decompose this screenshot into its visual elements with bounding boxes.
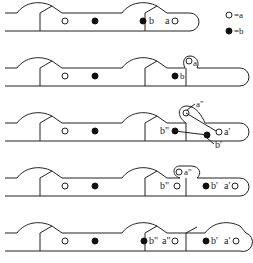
- legend-filled-label: =b: [234, 26, 244, 36]
- label-a: a: [165, 16, 169, 26]
- label-b-double-prime: b": [160, 126, 169, 136]
- label-b-prime: b': [211, 181, 218, 191]
- label-a-prime: a': [224, 127, 230, 137]
- label-b: b: [149, 16, 154, 26]
- legend-filled-icon: [226, 28, 232, 34]
- label-a-double-prime: a": [196, 99, 204, 109]
- open-circle-a: [172, 18, 178, 24]
- label-a: a: [193, 58, 197, 68]
- label-a-double-prime: a": [162, 236, 171, 246]
- filled-circle-b: [92, 18, 98, 24]
- label-a-prime: a': [224, 236, 230, 246]
- label-a-double-prime: a": [184, 167, 192, 177]
- label-b-double-prime: b": [149, 236, 158, 246]
- stage-2: [5, 56, 249, 86]
- label-b: b: [180, 71, 185, 81]
- legend-open-label: =a: [234, 10, 243, 20]
- stage-1: [5, 3, 232, 34]
- stage-3: [5, 104, 249, 144]
- diagram-canvas: [0, 0, 253, 263]
- label-b-double-prime: b": [160, 181, 169, 191]
- label-b-prime: b': [211, 236, 218, 246]
- label-a-prime: a': [224, 181, 230, 191]
- open-circle-a: [62, 18, 68, 24]
- legend-open-icon: [226, 12, 232, 18]
- label-b-prime: b': [215, 140, 222, 150]
- filled-circle-b: [140, 18, 146, 24]
